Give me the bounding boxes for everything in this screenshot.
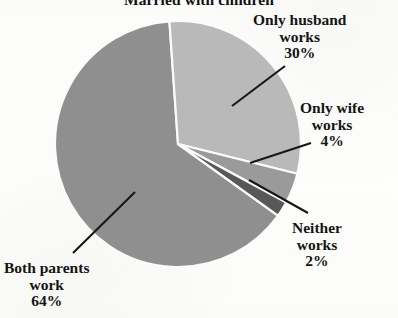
slice-label-line2: work xyxy=(4,277,89,294)
slice-label-neither-works: Neither works 2% xyxy=(292,220,342,270)
slice-label-only-husband-works: Only husband works 30% xyxy=(253,12,347,62)
slice-label-line2: works xyxy=(292,237,342,254)
slice-label-line1: Both parents xyxy=(4,259,89,276)
slice-label-line2: works xyxy=(253,29,347,46)
slice-label-line1: Neither xyxy=(292,219,342,236)
slice-label-line2: works xyxy=(300,117,364,134)
slice-label-line1: Only husband xyxy=(253,11,347,28)
slice-percent: 2% xyxy=(292,253,342,270)
slice-label-only-wife-works: Only wife works 4% xyxy=(300,100,364,150)
slice-percent: 4% xyxy=(300,133,364,150)
slice-percent: 30% xyxy=(253,45,347,62)
slice-label-both-parents-work: Both parents work 64% xyxy=(4,260,89,310)
chart-page: Married with children xyxy=(0,0,398,318)
slice-label-line1: Only wife xyxy=(300,99,364,116)
slice-percent: 64% xyxy=(4,293,89,310)
